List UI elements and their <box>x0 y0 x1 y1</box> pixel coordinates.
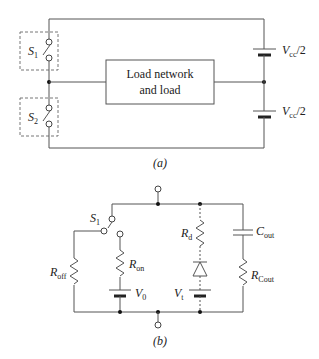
switch-s1-pole <box>109 216 115 222</box>
resistor-r-on <box>116 250 124 276</box>
figure-a: S1 S2 Load network and load Vcc/2 Vcc/2 … <box>20 19 306 170</box>
switch-s1-blade <box>43 45 50 55</box>
resistor-r-off <box>70 258 78 284</box>
top-terminal <box>155 186 161 192</box>
switch-s1-blade <box>108 222 112 228</box>
load-network-label: Load network <box>127 67 194 81</box>
supply-top-label: Vcc/2 <box>282 43 306 59</box>
switch-s1-contact-bottom <box>46 55 52 61</box>
r-d-label: Rd <box>180 226 192 242</box>
r-cout-label: RCout <box>250 268 275 284</box>
r-on-label: Ron <box>128 257 144 273</box>
load-network-label-2: and load <box>140 83 181 97</box>
v0-label: V0 <box>135 286 146 302</box>
supply-bottom-label: Vcc/2 <box>282 104 306 120</box>
switch-s1-throw <box>101 228 107 234</box>
figure-b: S1 Roff Ron V0 Rd Vt Cout RCout <box>49 186 275 348</box>
switch-s2-blade <box>43 111 50 121</box>
switch-s1-label-b: S1 <box>90 211 100 227</box>
bottom-terminal <box>155 322 161 328</box>
caption-b: (b) <box>153 334 167 348</box>
r-off-label: Roff <box>49 265 67 281</box>
diode-icon <box>193 262 207 276</box>
switch-s2-contact-bottom <box>46 121 52 127</box>
caption-a: (a) <box>153 156 167 170</box>
c-out-label: Cout <box>256 224 275 240</box>
switch-s1-label: S1 <box>28 44 38 60</box>
switch-on-contact <box>117 231 123 237</box>
switch-s2-label: S2 <box>28 110 38 126</box>
resistor-r-d <box>196 220 204 246</box>
circuit-diagram: S1 S2 Load network and load Vcc/2 Vcc/2 … <box>0 0 319 359</box>
switch-s2-box <box>20 98 58 136</box>
vt-label: Vt <box>174 286 184 302</box>
switch-s2-contact-top <box>46 105 52 111</box>
switch-s1-contact-top <box>46 39 52 45</box>
switch-s1-box <box>20 32 58 70</box>
resistor-r-cout <box>239 259 247 285</box>
